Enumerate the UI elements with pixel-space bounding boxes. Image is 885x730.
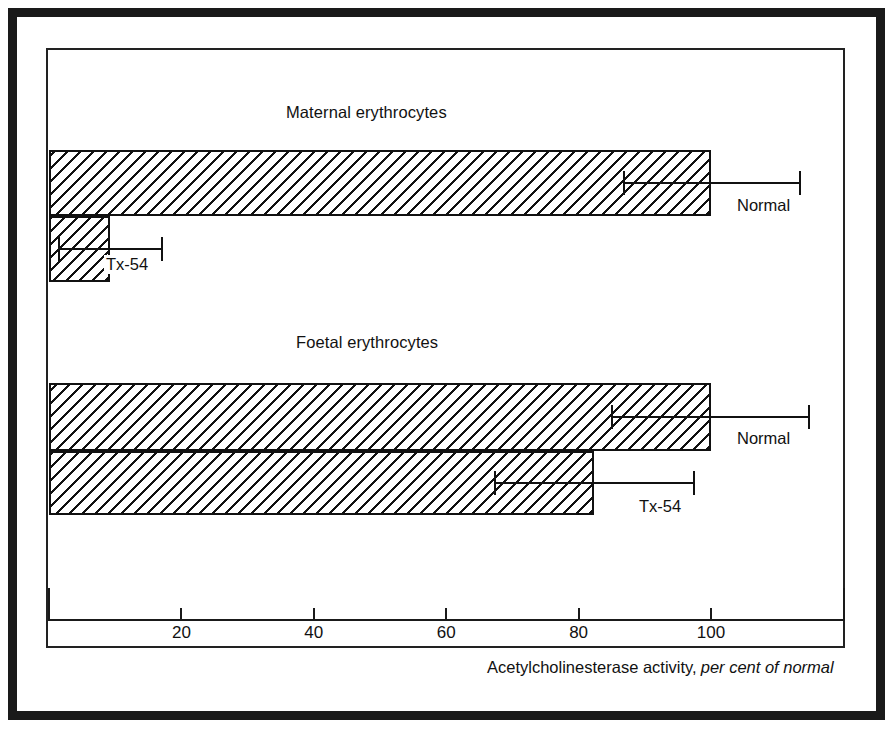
series-label-maternal-normal: Normal: [735, 196, 792, 215]
x-axis-tick-40: [313, 608, 315, 619]
error-bar-cap-low-1-0: [611, 405, 613, 429]
x-axis-tick-60: [445, 608, 447, 619]
x-axis-tick-100: [710, 608, 712, 619]
error-bar-cap-low-0-1: [58, 237, 60, 261]
figure-container: 20406080100 NormalTx-54NormalTx-54 Mater…: [0, 0, 885, 730]
bar-maternal-normal: [49, 150, 711, 216]
x-axis-title-plain: Acetylcholinesterase activity,: [487, 658, 697, 676]
x-axis-tick-label-100: 100: [681, 623, 741, 643]
x-axis-tick-80: [578, 608, 580, 619]
error-bar-line-1-0: [612, 416, 809, 418]
series-label-foetal-normal: Normal: [735, 429, 792, 448]
group-label-foetal: Foetal erythrocytes: [296, 333, 438, 352]
series-label-foetal-tx-54: Tx-54: [637, 497, 683, 516]
error-bar-cap-high-0-0: [799, 171, 801, 195]
error-bar-line-0-0: [624, 182, 801, 184]
error-bar-cap-low-0-0: [623, 171, 625, 195]
group-label-maternal: Maternal erythrocytes: [286, 103, 447, 122]
error-bar-line-1-1: [495, 482, 694, 484]
error-bar-cap-high-1-1: [693, 471, 695, 495]
x-axis-tick-label-20: 20: [151, 623, 211, 643]
error-bar-cap-high-1-0: [808, 405, 810, 429]
x-axis-tick-label-60: 60: [416, 623, 476, 643]
error-bar-cap-low-1-1: [494, 471, 496, 495]
x-axis-tick-20: [180, 608, 182, 619]
x-axis-tick-label-40: 40: [284, 623, 344, 643]
x-axis-line: [49, 619, 845, 621]
x-axis-right-stub: [843, 588, 845, 621]
x-axis-left-stub: [48, 588, 50, 621]
x-axis-tick-label-80: 80: [549, 623, 609, 643]
x-axis-title: Acetylcholinesterase activity,per cent o…: [487, 658, 834, 677]
plot-area-frame: [46, 48, 845, 648]
error-bar-cap-high-0-1: [161, 237, 163, 261]
x-axis-title-italic: per cent of normal: [701, 658, 834, 676]
error-bar-line-0-1: [59, 248, 162, 250]
series-label-maternal-tx-54: Tx-54: [104, 255, 150, 274]
